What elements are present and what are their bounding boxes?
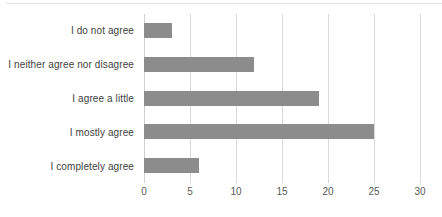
category-label-row: I mostly agree (0, 115, 138, 149)
bar (144, 158, 199, 173)
category-label: I mostly agree (70, 127, 138, 138)
category-label: I agree a little (72, 93, 138, 104)
tick-label: 20 (322, 186, 333, 197)
bar (144, 57, 254, 72)
horizontal-bar-chart: I do not agree I neither agree nor disag… (0, 0, 442, 217)
scan-artifact-line (6, 3, 442, 4)
category-label-row: I do not agree (0, 14, 138, 48)
bar-row (144, 14, 420, 48)
category-axis-labels: I do not agree I neither agree nor disag… (0, 14, 138, 183)
bar-row (144, 82, 420, 116)
tick-label: 10 (230, 186, 241, 197)
category-label: I completely agree (50, 161, 138, 172)
tick-label: 15 (276, 186, 287, 197)
category-label-row: I neither agree nor disagree (0, 48, 138, 82)
bar-row (144, 149, 420, 183)
bar-row (144, 115, 420, 149)
tick-label: 30 (414, 186, 425, 197)
bar (144, 23, 172, 38)
bar (144, 124, 374, 139)
tick-label: 0 (141, 186, 147, 197)
category-label: I do not agree (71, 25, 138, 36)
gridline (420, 14, 421, 183)
value-axis-tick-labels: 051015202530 (144, 186, 420, 202)
bar-row (144, 48, 420, 82)
plot-area (144, 14, 420, 183)
category-label-row: I completely agree (0, 149, 138, 183)
tick-label: 5 (187, 186, 193, 197)
category-label: I neither agree nor disagree (8, 59, 138, 70)
bar (144, 91, 319, 106)
category-label-row: I agree a little (0, 82, 138, 116)
tick-label: 25 (368, 186, 379, 197)
